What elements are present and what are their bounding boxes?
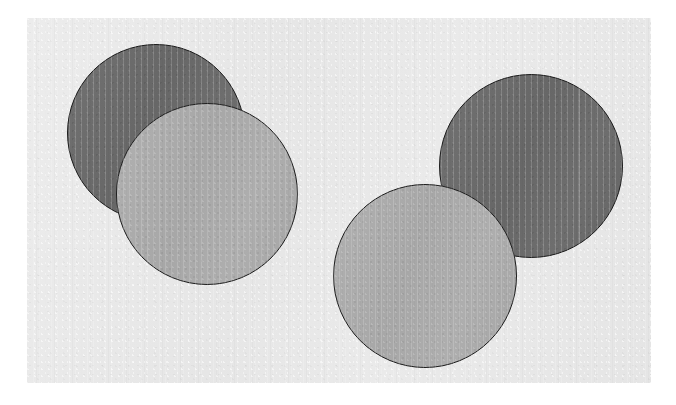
figure-canvas xyxy=(0,0,676,405)
disc-left-light xyxy=(116,103,298,285)
film-streak xyxy=(578,75,580,257)
image-plate xyxy=(27,18,651,383)
disc-right-light xyxy=(333,184,517,368)
